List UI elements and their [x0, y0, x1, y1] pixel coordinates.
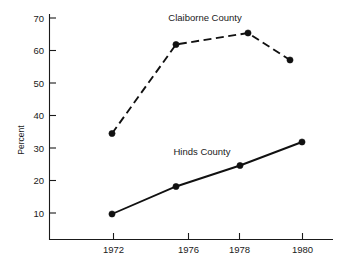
claiborne-point-1980 [287, 57, 293, 63]
y-tick-marks [50, 18, 57, 213]
series-hinds-county: Hinds County [109, 139, 305, 217]
x-axis-label-1978: 1978 [229, 244, 250, 255]
y-axis-label-50: 50 [33, 78, 44, 89]
y-axis-label-40: 40 [33, 110, 44, 121]
y-axis-title: Percent [16, 125, 26, 155]
claiborne-point-1976 [173, 41, 179, 47]
axis-lines [50, 14, 334, 240]
hinds-county-annotation: Hinds County [173, 146, 230, 157]
claiborne-county-line [112, 33, 290, 134]
hinds-point-1978 [237, 162, 243, 168]
claiborne-county-annotation: Claiborne County [168, 12, 242, 23]
line-chart: 70 60 50 40 30 20 10 1972 1976 1978 1980… [0, 0, 360, 271]
claiborne-point-1972 [109, 130, 115, 136]
hinds-point-1980 [299, 139, 305, 145]
y-axis-label-20: 20 [33, 175, 44, 186]
x-axis-label-1976: 1976 [178, 244, 199, 255]
y-tick-labels: 70 60 50 40 30 20 10 [33, 13, 44, 219]
axes-group: 70 60 50 40 30 20 10 1972 1976 1978 1980… [16, 13, 333, 256]
y-axis-label-60: 60 [33, 45, 44, 56]
claiborne-point-1978 [245, 30, 251, 36]
x-tick-marks [114, 233, 303, 240]
hinds-point-1976 [173, 183, 179, 189]
series-claiborne-county: Claiborne County [109, 12, 293, 137]
x-axis-label-1972: 1972 [103, 244, 124, 255]
x-tick-labels: 1972 1976 1978 1980 [103, 244, 313, 255]
hinds-point-1972 [109, 211, 115, 217]
x-axis-label-1980: 1980 [292, 244, 313, 255]
chart-canvas: 70 60 50 40 30 20 10 1972 1976 1978 1980… [0, 0, 360, 271]
y-axis-label-70: 70 [33, 13, 44, 24]
y-axis-label-10: 10 [33, 208, 44, 219]
y-axis-label-30: 30 [33, 143, 44, 154]
